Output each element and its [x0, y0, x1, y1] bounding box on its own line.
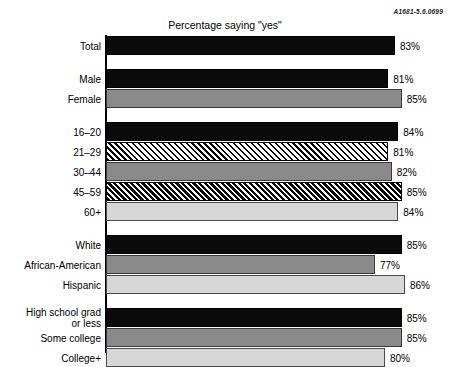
bar-row: Hispanic86% — [0, 275, 450, 294]
bar-85 — [106, 89, 402, 108]
bar-category-label: White — [0, 239, 101, 250]
bar-category-label: 45–59 — [0, 186, 101, 197]
bar-row: College+80% — [0, 348, 450, 367]
bar-category-label: Female — [0, 93, 101, 104]
bar-row: High school grad or less85% — [0, 308, 450, 327]
bar-85 — [106, 308, 402, 327]
bar-84 — [106, 202, 398, 221]
bar-row: Female85% — [0, 89, 450, 108]
bar-category-label: African-American — [0, 259, 101, 270]
bar-row: Male81% — [0, 69, 450, 88]
bar-category-label: Some college — [0, 332, 101, 343]
bar-row: 45–5985% — [0, 182, 450, 201]
bar-83 — [106, 36, 395, 55]
bar-category-label: 16–20 — [0, 126, 101, 137]
bar-value-label: 84% — [403, 206, 423, 217]
bar-85 — [106, 235, 402, 254]
bar-value-label: 85% — [407, 239, 427, 250]
bar-value-label: 85% — [407, 186, 427, 197]
bar-value-label: 82% — [397, 166, 417, 177]
bar-value-label: 83% — [400, 40, 420, 51]
bar-category-label: Hispanic — [0, 279, 101, 290]
bar-category-label: High school grad or less — [0, 307, 101, 329]
bar-value-label: 86% — [410, 279, 430, 290]
bar-84 — [106, 122, 398, 141]
bar-value-label: 85% — [407, 312, 427, 323]
bar-value-label: 77% — [380, 259, 400, 270]
bar-row: 21–2981% — [0, 142, 450, 161]
bar-81 — [106, 142, 388, 161]
bar-row: 30–4482% — [0, 162, 450, 181]
bar-value-label: 84% — [403, 126, 423, 137]
bar-row: 60+84% — [0, 202, 450, 221]
bar-row: Some college85% — [0, 328, 450, 347]
bar-81 — [106, 69, 388, 88]
bar-category-label: 60+ — [0, 206, 101, 217]
bar-category-label: 30–44 — [0, 166, 101, 177]
bar-category-label: Male — [0, 73, 101, 84]
bar-category-label: College+ — [0, 352, 101, 363]
bar-row: White85% — [0, 235, 450, 254]
bar-row: 16–2084% — [0, 122, 450, 141]
bar-value-label: 85% — [407, 332, 427, 343]
bar-category-label: 21–29 — [0, 146, 101, 157]
bar-row: African-American77% — [0, 255, 450, 274]
bar-85 — [106, 182, 402, 201]
bar-category-label: Total — [0, 40, 101, 51]
bar-value-label: 81% — [393, 73, 413, 84]
bar-82 — [106, 162, 392, 181]
bar-85 — [106, 328, 402, 347]
bar-77 — [106, 255, 375, 274]
bar-86 — [106, 275, 405, 294]
bar-value-label: 85% — [407, 93, 427, 104]
bar-row: Total83% — [0, 36, 450, 55]
bar-value-label: 81% — [393, 146, 413, 157]
bar-80 — [106, 348, 385, 367]
bar-value-label: 80% — [390, 352, 410, 363]
